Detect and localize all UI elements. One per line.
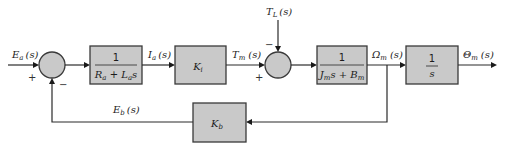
sum2-plus-sign: + xyxy=(255,72,263,83)
armature-numerator: 1 xyxy=(113,52,119,63)
integrator-numerator: 1 xyxy=(429,53,435,64)
arrow-icon xyxy=(400,62,406,68)
arrow-icon xyxy=(311,62,317,68)
arrow-icon xyxy=(49,78,55,84)
arrow-icon xyxy=(169,62,175,68)
arrow-icon xyxy=(491,62,497,68)
integrator-denominator: s xyxy=(429,68,434,79)
label-Tm: Tm(s) xyxy=(232,49,261,62)
arrow-icon xyxy=(275,46,281,52)
sum1-plus-sign: + xyxy=(28,72,36,83)
arrow-icon xyxy=(84,62,90,68)
label-Eb: Eb(s) xyxy=(112,104,140,117)
label-Ia: Ia(s) xyxy=(147,49,171,62)
summing-junction-1 xyxy=(39,52,65,78)
block-diagram: Ea(s) + − 1 Ra + Las Ia(s) Ki Tm(s) TL(s… xyxy=(0,0,507,150)
arrow-icon xyxy=(246,119,252,125)
sum2-minus-sign: − xyxy=(265,39,273,50)
label-Theta: Θm(s) xyxy=(463,49,494,62)
arrow-icon xyxy=(259,62,265,68)
arrow-icon xyxy=(33,62,39,68)
mechanical-numerator: 1 xyxy=(339,52,345,63)
summing-junction-2 xyxy=(265,52,291,78)
label-TL: TL(s) xyxy=(266,6,292,19)
sum1-minus-sign: − xyxy=(59,79,67,90)
label-Omega: Ωm(s) xyxy=(371,49,403,62)
label-Ea: Ea(s) xyxy=(11,49,39,62)
